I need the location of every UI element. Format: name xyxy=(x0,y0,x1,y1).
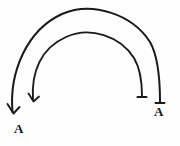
inner-arc-stroke xyxy=(33,33,142,100)
figure-canvas: A A xyxy=(0,0,180,146)
label-a-right: A xyxy=(154,105,163,118)
arrowhead-outer-left-icon xyxy=(8,104,20,114)
label-a-left: A xyxy=(14,122,23,135)
arc-diagram-svg xyxy=(0,0,180,146)
